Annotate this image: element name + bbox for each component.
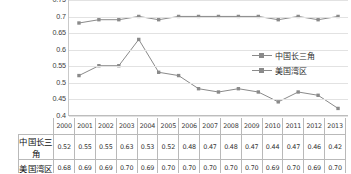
chart-legend: 中国长三角 美国湾区 [252,48,350,78]
table-cell: 0.46 [304,135,325,160]
table-row-label: 中国长三角 [19,135,54,160]
data-point-marker[interactable] [77,74,80,77]
legend-item-0[interactable]: 中国长三角 [252,48,350,63]
legend-label: 美国湾区 [275,65,307,76]
x-axis-tick-label: 2006 [179,118,200,135]
legend-marker-icon [252,66,272,75]
data-point-marker[interactable] [77,21,80,24]
data-point-marker[interactable] [217,90,220,93]
table-cell: 0.55 [75,135,96,160]
y-axis-tick-label: 0.75 [40,0,66,4]
data-point-marker[interactable] [117,18,120,21]
x-axis-tick-label: 2012 [304,118,325,135]
table-cell: 0.70 [179,160,200,174]
table-cell: 0.42 [325,135,346,160]
x-axis-tick-label: 2005 [158,118,179,135]
y-axis-tick-label: 0.6 [40,46,66,54]
x-axis-tick-label: 2002 [95,118,116,135]
x-axis-tick-label: 2000 [54,118,75,135]
table-cell: 0.47 [200,135,221,160]
data-point-marker[interactable] [277,18,280,21]
table-cell: 0.48 [220,135,241,160]
table-cell: 0.44 [262,135,283,160]
data-point-marker[interactable] [137,38,140,41]
table-cell: 0.55 [95,135,116,160]
table-cell: 0.68 [54,160,75,174]
gridline [69,116,348,117]
chart-figure: 0.750.70.650.60.550.50.450.4 中国长三角 美国湾区 … [0,0,351,173]
table-cell: 0.70 [325,160,346,174]
table-cell: 0.70 [158,160,179,174]
x-axis-tick-label: 2001 [75,118,96,135]
y-axis-tick-label: 0.5 [40,79,66,87]
data-point-marker[interactable] [197,87,200,90]
table-cell: 0.48 [179,135,200,160]
table-row-label: 美国湾区 [19,160,54,174]
data-point-marker[interactable] [316,18,319,21]
legend-marker-icon [252,51,272,60]
data-point-marker[interactable] [157,71,160,74]
data-point-marker[interactable] [296,90,299,93]
gridline [69,33,348,34]
table-cell: 0.69 [304,160,325,174]
table-cell: 0.63 [116,135,137,160]
data-point-marker[interactable] [157,18,160,21]
table-cell: 0.70 [220,160,241,174]
table-cell: 0.52 [54,135,75,160]
data-point-marker[interactable] [177,74,180,77]
x-axis-tick-label: 2008 [220,118,241,135]
data-table: 2000200120022003200420052006200720082009… [18,118,346,173]
x-axis-tick-label: 2010 [262,118,283,135]
legend-label: 中国长三角 [275,50,315,61]
table-row: 美国湾区0.680.690.690.700.690.700.700.700.70… [19,160,346,174]
legend-item-1[interactable]: 美国湾区 [252,63,350,78]
x-axis-tick-label: 2007 [200,118,221,135]
gridline [69,17,348,18]
x-axis-tick-label: 2011 [283,118,304,135]
table-cell: 0.52 [158,135,179,160]
table-row: 中国长三角0.520.550.550.630.530.520.480.470.4… [19,135,346,160]
table-cell: 0.47 [283,135,304,160]
x-axis-tick-label: 2003 [116,118,137,135]
gridline [69,83,348,84]
y-axis-tick-label: 0.55 [40,62,66,70]
data-point-marker[interactable] [277,100,280,103]
x-axis-tick-label: 2013 [325,118,346,135]
gridline [69,99,348,100]
y-axis-tick-label: 0.45 [40,95,66,103]
table-corner-cell [19,118,54,135]
table-cell: 0.70 [200,160,221,174]
table-cell: 0.70 [241,160,262,174]
gridline [69,0,348,1]
data-table-body: 2000200120022003200420052006200720082009… [19,118,346,173]
data-point-marker[interactable] [97,18,100,21]
table-cell: 0.69 [137,160,158,174]
y-axis-tick-label: 0.7 [40,13,66,21]
table-cell: 0.69 [262,160,283,174]
y-axis: 0.750.70.650.60.550.50.450.4 [38,0,66,120]
table-cell: 0.69 [95,160,116,174]
x-axis-row: 2000200120022003200420052006200720082009… [19,118,346,135]
table-cell: 0.47 [241,135,262,160]
table-cell: 0.53 [137,135,158,160]
data-point-marker[interactable] [316,94,319,97]
table-cell: 0.70 [116,160,137,174]
table-cell: 0.69 [75,160,96,174]
x-axis-tick-label: 2004 [137,118,158,135]
data-point-marker[interactable] [257,90,260,93]
x-axis-tick-label: 2009 [241,118,262,135]
y-axis-tick-label: 0.65 [40,29,66,37]
table-cell: 0.70 [283,160,304,174]
data-point-marker[interactable] [237,87,240,90]
data-point-marker[interactable] [336,107,339,110]
